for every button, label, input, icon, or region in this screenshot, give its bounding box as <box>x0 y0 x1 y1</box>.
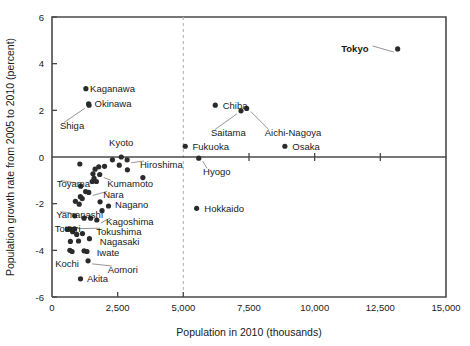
data-point[interactable] <box>395 46 400 51</box>
x-tick-label: 12,500 <box>366 302 395 313</box>
label-leader-line <box>373 46 394 52</box>
data-point-label: Yamanashi <box>56 209 103 220</box>
data-point[interactable] <box>78 276 83 281</box>
data-point-label: Shiga <box>60 120 85 131</box>
data-point-label: Nara <box>103 189 124 200</box>
data-point-label: Akita <box>87 273 109 284</box>
data-point[interactable] <box>96 164 101 169</box>
data-point[interactable] <box>119 154 124 159</box>
data-point[interactable] <box>85 258 90 263</box>
data-point[interactable] <box>80 231 85 236</box>
data-point[interactable] <box>83 86 88 91</box>
data-point-label: Tottori <box>55 223 81 234</box>
data-point[interactable] <box>106 203 111 208</box>
y-tick-label: 4 <box>39 58 44 69</box>
scatter-chart-figure: TokyoKaganawaOkinawaShigaChibaSaitamaAic… <box>0 0 470 346</box>
data-point[interactable] <box>110 157 115 162</box>
data-point[interactable] <box>90 171 95 176</box>
data-point-label: Kochi <box>55 258 79 269</box>
x-tick-label: 0 <box>49 302 54 313</box>
y-tick-label: 2 <box>39 105 44 116</box>
data-point[interactable] <box>77 202 82 207</box>
x-axis-title: Population in 2010 (thousands) <box>176 326 321 338</box>
data-point[interactable] <box>87 236 92 241</box>
data-point-label: Tokyo <box>341 43 368 54</box>
y-tick-label: -6 <box>36 292 44 303</box>
data-point[interactable] <box>97 172 102 177</box>
data-point[interactable] <box>68 239 73 244</box>
data-point-label: Hokkaido <box>204 203 244 214</box>
y-tick-label: 0 <box>39 152 44 163</box>
chart-canvas: TokyoKaganawaOkinawaShigaChibaSaitamaAic… <box>0 0 470 346</box>
data-point-label: Aomori <box>108 264 138 275</box>
y-tick-label: -4 <box>36 245 44 256</box>
x-tick-label: 10,000 <box>300 302 329 313</box>
data-point[interactable] <box>117 163 122 168</box>
x-tick-label: 15,000 <box>431 302 460 313</box>
data-point[interactable] <box>194 206 199 211</box>
data-point[interactable] <box>213 103 218 108</box>
y-tick-label: 6 <box>39 12 44 23</box>
data-point-label: Okinawa <box>95 98 133 109</box>
data-point[interactable] <box>102 164 107 169</box>
data-point-label: Iwate <box>97 247 120 258</box>
data-point-label: Saitama <box>211 127 247 138</box>
y-tick-label: -2 <box>36 198 44 209</box>
x-tick-label: 2,500 <box>106 302 130 313</box>
data-point-label: Kaganawa <box>90 83 136 94</box>
data-point[interactable] <box>67 248 72 253</box>
data-point[interactable] <box>282 144 287 149</box>
x-tick-label: 7,500 <box>237 302 261 313</box>
data-point[interactable] <box>83 189 88 194</box>
data-point-label: Aichi-Nagoya <box>265 127 322 138</box>
data-point-label: Hiroshima <box>140 159 183 170</box>
data-point[interactable] <box>86 103 91 108</box>
axis-tick-labels-group: 02,5005,0007,50010,00012,50015,000-6-4-2… <box>36 12 461 314</box>
data-point-label: Nagasaki <box>100 236 140 247</box>
data-point-labels-group: TokyoKaganawaOkinawaShigaChibaSaitamaAic… <box>55 43 369 284</box>
x-tick-label: 5,000 <box>171 302 195 313</box>
data-point[interactable] <box>183 144 188 149</box>
data-point[interactable] <box>76 238 81 243</box>
data-point[interactable] <box>125 157 130 162</box>
data-point[interactable] <box>80 196 85 201</box>
data-point[interactable] <box>196 156 201 161</box>
data-point-label: Kyoto <box>109 137 133 148</box>
y-axis-title: Population growth rate from 2005 to 2010… <box>4 38 16 276</box>
data-point[interactable] <box>77 161 82 166</box>
data-point-label: Chiba <box>223 100 249 111</box>
data-point[interactable] <box>97 199 102 204</box>
data-point[interactable] <box>125 167 130 172</box>
data-point-label: Hyogo <box>203 166 230 177</box>
data-point-label: Fukuoka <box>193 141 230 152</box>
data-point[interactable] <box>94 179 99 184</box>
data-point-label: Toyama <box>57 178 91 189</box>
data-point[interactable] <box>81 248 86 253</box>
data-point-label: Osaka <box>292 141 320 152</box>
data-point-label: Nagano <box>115 199 148 210</box>
data-point-label: Kumamoto <box>107 178 153 189</box>
